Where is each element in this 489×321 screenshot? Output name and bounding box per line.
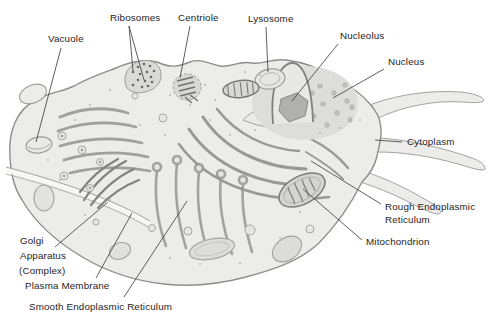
nucleolus-label: Nucleolus [340, 30, 384, 41]
centriole-label: Centriole [178, 12, 219, 23]
cytoplasm-label: Cytoplasm [407, 136, 455, 147]
ribosomes-label: Ribosomes [110, 12, 160, 23]
cell-diagram-canvas: Vacuole Ribosomes Centriole Lysosome Nuc… [0, 0, 489, 321]
plasma-membrane-label: Plasma Membrane [25, 280, 110, 291]
golgi-label-line1: Golgi [20, 235, 44, 246]
rough-er-label-line1: Rough Endoplasmic [385, 201, 475, 212]
nucleus-label: Nucleus [388, 56, 424, 67]
golgi-label-line3: (Complex) [19, 265, 66, 276]
golgi-label-line2: Apparatus [20, 250, 66, 261]
cell-diagram-figure: Vacuole Ribosomes Centriole Lysosome Nuc… [0, 0, 489, 321]
vacuole-label: Vacuole [48, 33, 84, 44]
lysosome-label: Lysosome [248, 13, 294, 24]
rough-er-label-line2: Reticulum [385, 214, 430, 225]
mitochondrion-label: Mitochondrion [366, 236, 430, 247]
cell-tail-upper [372, 92, 484, 119]
smooth-er-label: Smooth Endoplasmic Reticulum [29, 301, 172, 312]
